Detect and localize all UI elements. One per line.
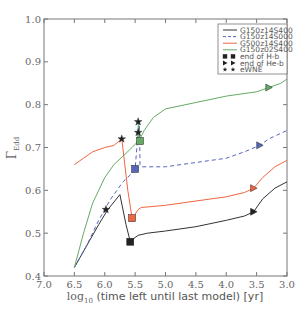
series-line-G150z02S400 — [74, 79, 287, 267]
end-of-he-b-marker — [251, 208, 258, 215]
x-axis-label: log10 (time left until last model) [yr] — [67, 290, 263, 305]
x-tick-label: 6.0 — [97, 279, 113, 290]
y-tick-label: 0.6 — [25, 185, 41, 196]
y-tick-label: 1.0 — [25, 14, 41, 25]
y-axis-label: ΓEdd — [5, 136, 21, 159]
x-tick-label: 4.5 — [188, 279, 204, 290]
legend: G150z14S400G150z14S000G500z14S400G150z02… — [218, 24, 293, 74]
end-of-h-b-marker — [129, 215, 136, 222]
end-of-h-b-marker — [136, 138, 143, 145]
x-tick-label: 4.0 — [218, 279, 234, 290]
x-tick-label: 3.0 — [279, 279, 295, 290]
x-tick-label: 3.5 — [249, 279, 265, 290]
x-tick-label: 5.5 — [127, 279, 143, 290]
end-of-he-b-marker — [257, 142, 264, 149]
series-line-G150z14S400 — [74, 182, 287, 268]
y-tick-label: 0.7 — [25, 142, 41, 153]
x-tick-label: 6.5 — [66, 279, 82, 290]
series-line-G150z14S000 — [74, 122, 287, 268]
x-tick-label: 7.0 — [36, 279, 52, 290]
end-of-h-b-marker — [132, 165, 139, 172]
square-icon — [223, 54, 227, 58]
y-tick-label: 0.8 — [25, 99, 41, 110]
x-tick-label: 5.0 — [158, 279, 174, 290]
y-tick-label: 0.9 — [25, 56, 41, 67]
chart: 0.40.50.60.70.80.91.0 7.06.56.05.55.04.5… — [0, 0, 306, 323]
data-series — [74, 79, 287, 267]
legend-label: eWNE — [240, 65, 263, 74]
end-of-he-b-marker — [266, 84, 273, 91]
y-tick-label: 0.5 — [25, 228, 41, 239]
square-icon — [231, 54, 235, 58]
end-of-h-b-marker — [127, 238, 134, 245]
data-markers — [102, 84, 272, 245]
